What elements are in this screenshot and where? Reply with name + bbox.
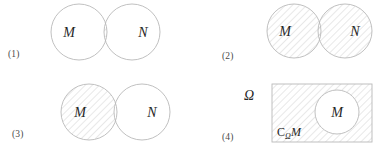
panel-4-group: Ω M C Ω M	[244, 84, 372, 142]
venn-diagram-figure: M N M N M N Ω	[0, 0, 377, 153]
panel-2-group: M N	[267, 4, 372, 58]
panel-4-label-omega: Ω	[244, 88, 254, 103]
panel-1-group: M N	[51, 4, 160, 60]
panel-number-4: (4)	[222, 132, 234, 142]
panel-4-label-m: M	[330, 105, 344, 120]
panel-number-2: (2)	[222, 51, 234, 61]
complement-operand-m: M	[290, 125, 302, 139]
panel-3-label-m: M	[73, 105, 87, 120]
panel-1-label-n: N	[137, 25, 148, 40]
panel-number-3: (3)	[12, 129, 24, 139]
venn-diagram-canvas: M N M N M N Ω	[0, 0, 377, 153]
panel-3-group: M N	[50, 75, 180, 150]
panel-number-1: (1)	[8, 49, 20, 59]
panel-2-label-m: M	[278, 24, 292, 39]
panel-3-difference-shading	[50, 75, 180, 150]
complement-symbol-c: C	[277, 125, 285, 139]
panel-3-label-n: N	[146, 105, 157, 120]
panel-1-label-m: M	[62, 25, 76, 40]
panel-2-label-n: N	[349, 24, 360, 39]
